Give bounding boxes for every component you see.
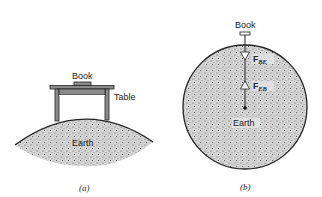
book xyxy=(74,82,91,86)
table-label: Table xyxy=(114,92,136,102)
earth-label-b: Earth xyxy=(233,118,255,128)
book-label: Book xyxy=(72,71,93,81)
earth-center-dot xyxy=(243,106,247,110)
caption-b: (b) xyxy=(240,182,251,192)
panel-a: Book Table Earth (a) xyxy=(15,71,153,193)
figure: Book Table Earth (a) FBE FEB Book Earth … xyxy=(0,0,322,197)
earth-label: Earth xyxy=(72,138,94,148)
panel-b: FBE FEB Book Earth (b) xyxy=(183,20,307,192)
book-symbol xyxy=(240,32,250,35)
caption-a: (a) xyxy=(79,183,90,193)
table xyxy=(50,86,114,122)
book-label-b: Book xyxy=(235,20,256,30)
